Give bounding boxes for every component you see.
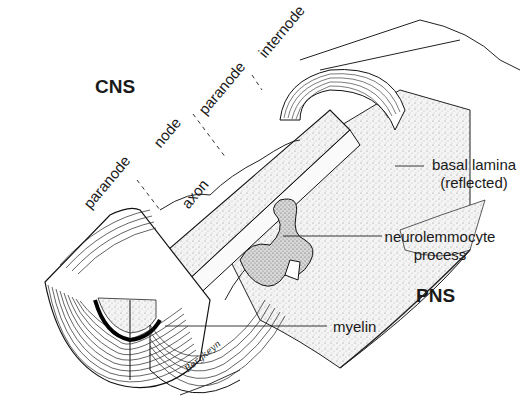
basal-lamina-label: basal lamina (reflected) — [428, 157, 520, 190]
internode-myelin — [280, 20, 520, 130]
pns-region-label: PNS — [416, 286, 455, 305]
basal-lamina-line1: basal lamina — [428, 157, 520, 172]
myelinated-axon-illustration — [0, 0, 523, 414]
cns-region-label: CNS — [95, 77, 135, 96]
neurolemmocyte-label: neurolemmocyte process — [384, 229, 496, 262]
neurolemmocyte-line1: neurolemmocyte — [384, 229, 496, 244]
myelin-label: myelin — [333, 319, 376, 334]
basal-lamina-line2: (reflected) — [428, 175, 520, 190]
neurolemmocyte-line2: process — [384, 247, 496, 262]
